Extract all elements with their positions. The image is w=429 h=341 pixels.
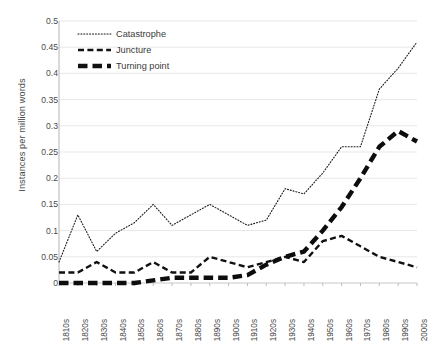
series-line-juncture xyxy=(59,236,417,273)
x-tick-label-wrap: 1910s xyxy=(241,286,253,323)
x-tick-label-wrap: 1830s xyxy=(91,286,103,323)
x-tick-label-wrap: 1860s xyxy=(147,286,159,323)
x-tick-label: 1950s xyxy=(326,319,335,341)
x-tick-label: 1830s xyxy=(100,319,109,341)
legend-label-juncture: Juncture xyxy=(116,45,151,55)
x-tick-label: 1840s xyxy=(119,319,128,341)
x-tick-label: 1880s xyxy=(194,319,203,341)
x-tick-label-wrap: 1820s xyxy=(72,286,84,323)
x-tick-label-wrap: 2000s xyxy=(411,286,423,323)
x-tick-label-wrap: 1990s xyxy=(392,286,404,323)
x-tick-label-wrap: 1940s xyxy=(298,286,310,323)
x-tick-label: 1860s xyxy=(156,319,165,341)
x-tick-label: 1900s xyxy=(232,319,241,341)
x-tick-label: 1940s xyxy=(307,319,316,341)
x-tick-label: 1850s xyxy=(137,319,146,341)
x-tick-label-wrap: 1970s xyxy=(354,286,366,323)
x-tick-label: 1930s xyxy=(288,319,297,341)
x-tick-label-wrap: 1890s xyxy=(204,286,216,323)
x-tick-label: 2000s xyxy=(420,319,429,341)
legend: CatastropheJunctureTurning point xyxy=(78,29,170,71)
x-tick-label-wrap: 1960s xyxy=(336,286,348,323)
x-tick-label: 1810s xyxy=(62,319,71,341)
x-tick-label-wrap: 1980s xyxy=(373,286,385,323)
x-tick-label-wrap: 1810s xyxy=(53,286,65,323)
x-tick-label: 1890s xyxy=(213,319,222,341)
legend-label-catastrophe: Catastrophe xyxy=(116,29,166,39)
x-tick-label: 1910s xyxy=(250,319,259,341)
x-tick-label: 1970s xyxy=(363,319,372,341)
x-tick-label: 1820s xyxy=(81,319,90,341)
x-tick-label: 1870s xyxy=(175,319,184,341)
x-tick-label: 1990s xyxy=(401,319,410,341)
x-tick-label-wrap: 1880s xyxy=(185,286,197,323)
x-tick-label-wrap: 1850s xyxy=(128,286,140,323)
series-line-turning-point xyxy=(59,131,417,283)
x-tick-label-wrap: 1950s xyxy=(317,286,329,323)
legend-label-turning-point: Turning point xyxy=(116,61,170,71)
x-tick-label-wrap: 1920s xyxy=(260,286,272,323)
x-tick-label-wrap: 1930s xyxy=(279,286,291,323)
gridlines xyxy=(59,21,417,283)
x-tick-label: 1960s xyxy=(345,319,354,341)
x-tick-label: 1980s xyxy=(382,319,391,341)
x-tick-label: 1920s xyxy=(269,319,278,341)
x-tick-label-wrap: 1900s xyxy=(223,286,235,323)
x-tick-label-wrap: 1840s xyxy=(110,286,122,323)
x-tick-label-wrap: 1870s xyxy=(166,286,178,323)
x-axis-tick-labels: 1810s1820s1830s1840s1850s1860s1870s1880s… xyxy=(0,286,425,323)
